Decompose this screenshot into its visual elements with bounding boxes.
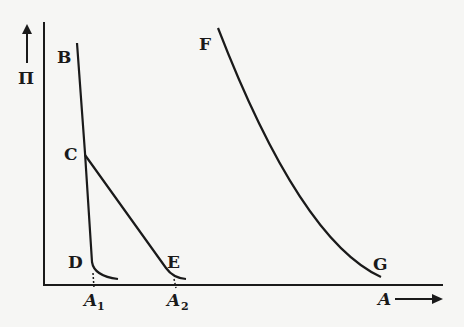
- point-label-e: E: [167, 252, 180, 272]
- x-axis-label: A: [376, 289, 391, 309]
- curve-fg: [218, 28, 381, 277]
- y-axis-label: Π: [18, 68, 34, 88]
- a2-dashed-line: [174, 279, 176, 288]
- svg-text:A: A: [165, 290, 180, 310]
- svg-text:2: 2: [181, 300, 189, 313]
- point-label-f: F: [199, 34, 211, 54]
- x-arrow-icon: [395, 294, 443, 304]
- tick-label-a2: A 2: [165, 290, 189, 313]
- isotherm-diagram: Π A B C D E F G A 1 A 2: [0, 0, 464, 327]
- point-label-b: B: [57, 47, 71, 67]
- y-arrow-icon: [22, 24, 32, 63]
- curve-bcd: [77, 43, 118, 279]
- point-label-d: D: [68, 252, 83, 272]
- point-label-c: C: [64, 144, 78, 164]
- tick-label-a1: A 1: [82, 290, 105, 313]
- a1-dashed-line: [93, 273, 94, 288]
- svg-text:A: A: [82, 290, 97, 310]
- point-label-g: G: [373, 254, 388, 274]
- svg-text:1: 1: [97, 300, 105, 313]
